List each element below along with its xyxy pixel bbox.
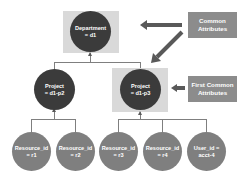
arrow-common-to-project-icon: [151, 32, 182, 63]
node-project-value: = d1-p3: [131, 90, 151, 97]
node-resource-r1: Resource_id = r1: [12, 132, 51, 171]
node-leaf-value: = r4: [146, 152, 180, 159]
node-department-label: Department: [75, 25, 106, 32]
node-department-d1: Department = d1: [70, 11, 111, 52]
callout-common-line2: Attributes: [198, 25, 227, 33]
node-leaf-value: = r2: [59, 152, 93, 159]
arrow-first-common-to-project-icon: [171, 84, 185, 92]
node-leaf-label: User_id =: [194, 145, 219, 152]
callout-common-line1: Common: [198, 17, 227, 25]
node-user-acct-4: User_id = acct-4: [187, 132, 226, 171]
node-leaf-label: Resource_id: [59, 145, 93, 152]
node-resource-r2: Resource_id = r2: [56, 132, 95, 171]
node-leaf-value: = r3: [102, 152, 136, 159]
callout-first-common-line1: First Common: [192, 81, 234, 89]
callout-first-common-line2: Attributes: [192, 89, 234, 97]
node-resource-r4: Resource_id = r4: [143, 132, 182, 171]
callout-first-common-attributes: First Common Attributes: [188, 76, 237, 102]
arrow-common-to-department-icon: [140, 20, 182, 30]
arrowhead-up-root: [88, 52, 92, 56]
node-project-label: Project: [131, 83, 151, 90]
node-project-d1-p2: Project = d1-p2: [34, 69, 75, 110]
node-leaf-value: = r1: [15, 152, 49, 159]
node-resource-r3: Resource_id = r3: [99, 132, 138, 171]
node-leaf-label: Resource_id: [146, 145, 180, 152]
node-department-value: = d1: [75, 32, 106, 39]
node-project-label: Project: [45, 83, 65, 90]
node-leaf-value: acct-4: [194, 152, 219, 159]
callout-common-attributes: Common Attributes: [188, 12, 237, 38]
arrowhead-up-p3: [138, 111, 142, 115]
node-project-d1-p3: Project = d1-p3: [120, 69, 161, 110]
node-project-value: = d1-p2: [45, 90, 65, 97]
node-leaf-label: Resource_id: [102, 145, 136, 152]
node-leaf-label: Resource_id: [15, 145, 49, 152]
